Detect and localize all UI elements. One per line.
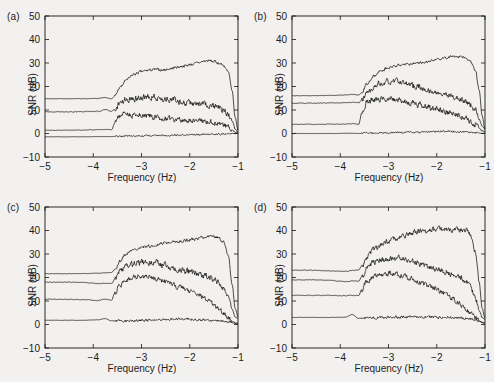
data-curve <box>292 271 485 324</box>
y-tick-label: 50 <box>29 11 41 22</box>
data-curve <box>292 255 485 320</box>
y-tick-label: −10 <box>23 343 40 354</box>
y-tick-label: 40 <box>276 225 288 236</box>
data-curve <box>45 112 238 134</box>
panel-letter: (b) <box>254 11 267 22</box>
y-axis-label: SNR (dB) <box>27 54 38 134</box>
x-tick-label: −5 <box>39 161 51 172</box>
x-axis-label: Frequency (Hz) <box>45 172 239 183</box>
data-curve <box>292 56 485 129</box>
axes-frame <box>292 16 485 157</box>
y-tick-label: −10 <box>270 343 287 354</box>
x-tick-label: −5 <box>39 352 51 363</box>
x-tick-label: −5 <box>286 161 298 172</box>
data-curve <box>292 130 485 133</box>
y-axis-label: SNR (dB) <box>27 245 38 325</box>
figure-root: −5−4−3−2−1−1001020304050(a)SNR (dB)Frequ… <box>0 0 494 382</box>
data-curve <box>45 259 238 318</box>
data-curve <box>292 315 485 323</box>
data-curve <box>292 96 485 132</box>
x-tick-label: −4 <box>335 352 347 363</box>
data-curve <box>45 133 238 137</box>
x-tick-label: −2 <box>431 161 443 172</box>
x-tick-label: −3 <box>136 161 148 172</box>
panel-letter: (d) <box>254 202 267 213</box>
y-tick-label: 50 <box>29 202 41 213</box>
data-curve <box>45 318 238 323</box>
y-tick-label: 40 <box>29 34 41 45</box>
x-tick-label: −1 <box>232 161 244 172</box>
panel-b: −5−4−3−2−1−1001020304050(b)SNR (dB)Frequ… <box>247 0 494 191</box>
x-axis-label: Frequency (Hz) <box>292 172 486 183</box>
panel-c: −5−4−3−2−1−1001020304050(c)SNR (dB)Frequ… <box>0 191 247 382</box>
x-axis-label: Frequency (Hz) <box>45 363 239 374</box>
x-tick-label: −5 <box>286 352 298 363</box>
y-tick-label: 40 <box>276 34 288 45</box>
x-tick-label: −4 <box>335 161 347 172</box>
y-tick-label: 40 <box>29 225 41 236</box>
y-tick-label: −10 <box>270 152 287 163</box>
x-tick-label: −4 <box>88 161 100 172</box>
x-tick-label: −3 <box>136 352 148 363</box>
x-axis-label: Frequency (Hz) <box>292 363 486 374</box>
x-tick-label: −2 <box>184 161 196 172</box>
data-curve <box>45 94 238 132</box>
panel-a: −5−4−3−2−1−1001020304050(a)SNR (dB)Frequ… <box>0 0 247 191</box>
panel-d: −5−4−3−2−1−1001020304050(d)SNR (dB)Frequ… <box>247 191 494 382</box>
x-tick-label: −1 <box>232 352 244 363</box>
y-tick-label: −10 <box>23 152 40 163</box>
x-tick-label: −1 <box>479 352 491 363</box>
y-tick-label: 50 <box>276 202 288 213</box>
panel-letter: (c) <box>7 202 19 213</box>
y-axis-label: SNR (dB) <box>274 54 285 134</box>
x-tick-label: −2 <box>431 352 443 363</box>
x-tick-label: −4 <box>88 352 100 363</box>
y-axis-label: SNR (dB) <box>274 245 285 325</box>
x-tick-label: −2 <box>184 352 196 363</box>
x-tick-label: −3 <box>383 161 395 172</box>
data-curve <box>45 60 238 130</box>
x-tick-label: −3 <box>383 352 395 363</box>
x-tick-label: −1 <box>479 161 491 172</box>
y-tick-label: 50 <box>276 11 288 22</box>
panel-letter: (a) <box>7 11 20 22</box>
data-curve <box>292 78 485 129</box>
